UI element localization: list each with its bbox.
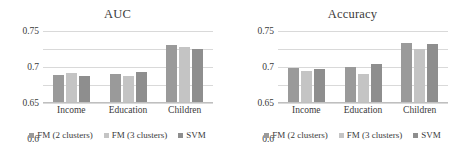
legend-label: FM (2 clusters) — [272, 130, 328, 140]
chart-panel-auc: AUC 0.550.60.650.70.75 IncomeEducationCh… — [0, 0, 235, 128]
plot-area-auc: 0.550.60.650.70.75 — [43, 31, 213, 103]
bar — [123, 76, 134, 103]
x-tick-label: Education — [100, 105, 157, 115]
y-tick-label: 0.65 — [257, 98, 274, 108]
page-title: Accuracy — [235, 7, 470, 22]
bar — [53, 75, 64, 103]
y-tick-label: 0.75 — [257, 26, 274, 36]
panel-row: AUC 0.550.60.650.70.75 IncomeEducationCh… — [0, 0, 470, 128]
axis-baseline — [43, 102, 213, 103]
x-tick-labels-accuracy: IncomeEducationChildren — [278, 105, 448, 115]
x-tick-label: Children — [156, 105, 213, 115]
bar-group — [100, 31, 157, 103]
bar-group — [278, 31, 335, 103]
bar — [192, 49, 203, 103]
legend-item[interactable]: FM (3 clusters) — [104, 130, 168, 140]
legend-swatch-icon — [29, 133, 34, 138]
gridline: 0.55 — [278, 103, 448, 104]
bar-groups-auc — [43, 31, 213, 103]
bar — [314, 69, 325, 103]
bar — [166, 45, 177, 103]
y-tick-label: 0.7 — [262, 62, 274, 72]
bar — [345, 67, 356, 103]
bar-group — [335, 31, 392, 103]
bar — [288, 68, 299, 103]
legend-label: FM (3 clusters) — [112, 130, 168, 140]
bar — [371, 64, 382, 103]
bar — [301, 71, 312, 103]
x-tick-label: Income — [43, 105, 100, 115]
page-title: AUC — [0, 7, 235, 22]
bar-groups-accuracy — [278, 31, 448, 103]
legend-item[interactable]: SVM — [413, 130, 441, 140]
figure: AUC 0.550.60.650.70.75 IncomeEducationCh… — [0, 0, 470, 155]
x-tick-label: Education — [335, 105, 392, 115]
x-tick-label: Children — [391, 105, 448, 115]
legend-label: FM (3 clusters) — [347, 130, 403, 140]
legend-swatch-icon — [413, 133, 418, 138]
y-tick-label: 0.75 — [22, 26, 39, 36]
bar — [66, 73, 77, 103]
bar — [136, 72, 147, 103]
legend-item[interactable]: SVM — [178, 130, 206, 140]
bar — [79, 76, 90, 103]
bar — [414, 49, 425, 103]
legend-label: SVM — [186, 130, 206, 140]
legend-item[interactable]: FM (2 clusters) — [29, 130, 93, 140]
gridline: 0.55 — [43, 103, 213, 104]
legend-label: FM (2 clusters) — [37, 130, 93, 140]
bar — [110, 74, 121, 103]
axis-baseline — [278, 102, 448, 103]
legend-item[interactable]: FM (2 clusters) — [264, 130, 328, 140]
legend-accuracy: FM (2 clusters)FM (3 clusters)SVM — [235, 130, 470, 140]
bar — [401, 43, 412, 103]
bar-group — [391, 31, 448, 103]
plot-area-accuracy: 0.550.60.650.70.75 — [278, 31, 448, 103]
x-tick-label: Income — [278, 105, 335, 115]
legend-swatch-icon — [264, 133, 269, 138]
x-tick-labels-auc: IncomeEducationChildren — [43, 105, 213, 115]
legend-swatch-icon — [339, 133, 344, 138]
bar — [179, 47, 190, 103]
legend-auc: FM (2 clusters)FM (3 clusters)SVM — [0, 130, 235, 140]
legend-swatch-icon — [104, 133, 109, 138]
legend-item[interactable]: FM (3 clusters) — [339, 130, 403, 140]
y-tick-label: 0.65 — [22, 98, 39, 108]
y-tick-label: 0.7 — [27, 62, 39, 72]
legend-label: SVM — [421, 130, 441, 140]
chart-panel-accuracy: Accuracy 0.550.60.650.70.75 IncomeEducat… — [235, 0, 470, 128]
bar — [358, 74, 369, 103]
bar-group — [43, 31, 100, 103]
bar — [427, 44, 438, 103]
legend-swatch-icon — [178, 133, 183, 138]
bar-group — [156, 31, 213, 103]
